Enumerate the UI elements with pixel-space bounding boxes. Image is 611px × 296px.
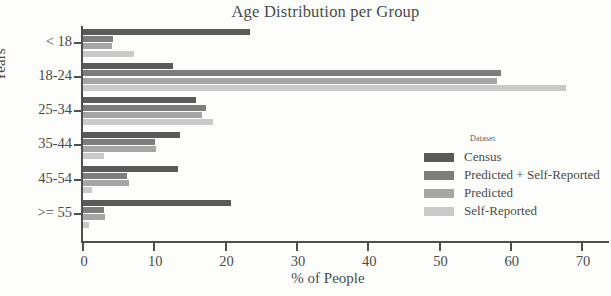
bar <box>83 132 180 138</box>
y-tick-label: 18-24 <box>38 67 72 84</box>
bar <box>83 180 129 186</box>
bar <box>83 105 206 111</box>
legend-item[interactable]: Predicted <box>424 184 600 202</box>
legend: Dataset CensusPredicted + Self-ReportedP… <box>424 134 600 220</box>
x-tick-mark <box>510 243 512 251</box>
y-tick-label: >= 55 <box>38 204 72 221</box>
legend-swatch <box>424 153 454 162</box>
legend-title: Dataset <box>470 134 600 143</box>
bar <box>83 85 566 91</box>
bar <box>83 51 134 57</box>
chart-title: Age Distribution per Group <box>0 2 611 22</box>
y-tick-mark <box>74 213 83 215</box>
bar <box>83 43 112 49</box>
x-tick-label: 20 <box>207 253 247 270</box>
x-tick-label: 60 <box>492 253 532 270</box>
bar <box>83 146 156 152</box>
bar <box>83 63 173 69</box>
bar <box>83 222 89 228</box>
legend-label: Predicted + Self-Reported <box>464 167 600 183</box>
legend-swatch <box>424 171 454 180</box>
legend-rows: CensusPredicted + Self-ReportedPredicted… <box>424 148 600 220</box>
x-tick-label: 30 <box>278 253 318 270</box>
bar <box>83 70 501 76</box>
y-tick-mark <box>74 42 83 44</box>
y-axis-title: Years <box>0 49 9 82</box>
legend-swatch <box>424 189 454 198</box>
x-tick-label: 10 <box>135 253 175 270</box>
y-tick-label: 45-54 <box>38 170 72 187</box>
y-tick-mark <box>74 76 83 78</box>
bar <box>83 97 196 103</box>
x-tick-mark <box>296 243 298 251</box>
x-tick-mark <box>225 243 227 251</box>
legend-label: Predicted <box>464 185 513 201</box>
x-tick-label: 50 <box>421 253 461 270</box>
legend-label: Census <box>464 149 502 165</box>
bar <box>83 214 105 220</box>
bar <box>83 153 104 159</box>
bar <box>83 29 250 35</box>
x-tick-label: 70 <box>563 253 603 270</box>
x-tick-label: 0 <box>64 253 104 270</box>
x-axis-title: % of People <box>0 270 611 287</box>
y-tick-mark <box>74 179 83 181</box>
bar <box>83 200 231 206</box>
bar <box>83 187 92 193</box>
bar <box>83 112 202 118</box>
bar <box>83 173 127 179</box>
legend-item[interactable]: Self-Reported <box>424 202 600 220</box>
x-tick-mark <box>153 243 155 251</box>
y-tick-mark <box>74 110 83 112</box>
legend-item[interactable]: Census <box>424 148 600 166</box>
bar <box>83 139 155 145</box>
bar <box>83 36 113 42</box>
bar <box>83 119 213 125</box>
x-tick-mark <box>82 243 84 251</box>
legend-label: Self-Reported <box>464 203 537 219</box>
x-tick-label: 40 <box>349 253 389 270</box>
x-tick-mark <box>367 243 369 251</box>
y-tick-mark <box>74 144 83 146</box>
legend-swatch <box>424 207 454 216</box>
x-axis-line <box>81 241 609 243</box>
x-tick-mark <box>581 243 583 251</box>
bar <box>83 207 104 213</box>
bar <box>83 78 497 84</box>
legend-item[interactable]: Predicted + Self-Reported <box>424 166 600 184</box>
chart-figure: Age Distribution per Group Years % of Pe… <box>0 0 611 296</box>
x-tick-mark <box>439 243 441 251</box>
y-tick-label: < 18 <box>46 33 72 50</box>
y-tick-label: 35-44 <box>38 135 72 152</box>
y-tick-label: 25-34 <box>38 101 72 118</box>
bar <box>83 166 178 172</box>
